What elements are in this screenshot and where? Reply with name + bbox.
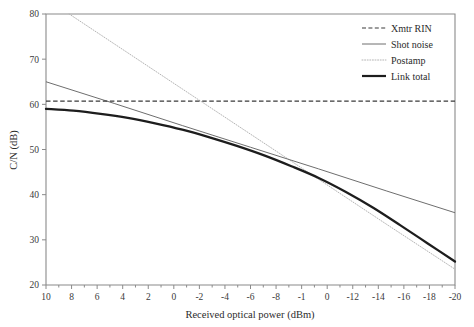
x-tick-label: 8 — [69, 292, 74, 302]
x-tick-label: 6 — [95, 292, 100, 302]
x-tick-label: 4 — [120, 292, 125, 302]
y-tick-label: 70 — [30, 55, 40, 65]
x-tick-label: -12 — [346, 292, 359, 302]
series-group — [46, 14, 455, 269]
legend-label-link-total: Link total — [391, 71, 430, 82]
legend-label-postamp: Postamp — [391, 55, 425, 66]
x-tick-label: -8 — [272, 292, 280, 302]
chart-svg: 80706050403020 1086420-2-4-6-8-10-12-14-… — [0, 0, 474, 327]
x-tick-label: 0 — [171, 292, 176, 302]
x-tick-label: -16 — [398, 292, 411, 302]
x-tick-label: 0 — [325, 292, 330, 302]
y-tick-label: 40 — [30, 190, 40, 200]
y-tick-label: 80 — [30, 9, 40, 19]
series-line-link-total — [46, 109, 455, 262]
x-tick-label: 2 — [146, 292, 151, 302]
legend-label-shot-noise: Shot noise — [391, 39, 434, 50]
chart-figure: 80706050403020 1086420-2-4-6-8-10-12-14-… — [0, 0, 474, 327]
y-axis-title: C/N (dB) — [8, 130, 20, 170]
x-tick-label: 10 — [41, 292, 51, 302]
x-axis-ticks: 1086420-2-4-6-8-10-12-14-16-18-20 — [41, 285, 461, 302]
y-tick-label: 30 — [30, 235, 40, 245]
x-tick-label: -2 — [195, 292, 203, 302]
x-axis-title: Received optical power (dBm) — [185, 309, 315, 321]
legend-label-xmtr-rin: Xmtr RIN — [391, 23, 432, 34]
x-tick-label: -14 — [372, 292, 385, 302]
y-tick-label: 60 — [30, 100, 40, 110]
y-tick-label: 20 — [30, 280, 40, 290]
series-line-postamp — [69, 14, 455, 269]
x-tick-label: -1 — [298, 292, 306, 302]
series-line-shot-noise — [46, 82, 455, 213]
y-axis-ticks: 80706050403020 — [30, 9, 47, 290]
chart-legend: Xmtr RIN Shot noise Postamp Link total — [362, 23, 434, 82]
x-tick-label: -18 — [423, 292, 436, 302]
x-tick-label: -20 — [449, 292, 462, 302]
y-tick-label: 50 — [30, 145, 40, 155]
x-tick-label: -6 — [247, 292, 255, 302]
x-tick-label: -4 — [221, 292, 229, 302]
